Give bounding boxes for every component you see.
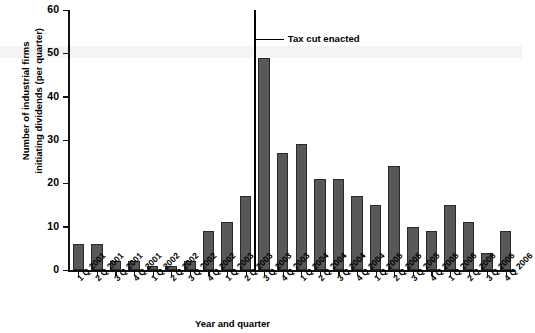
tax-cut-annotation-label: Tax cut enacted [288,33,360,44]
y-axis-title-line-2: initiating dividends (per quarter) [33,0,46,226]
tax-cut-event-line [254,10,256,270]
y-tick-label-10: 10 [31,221,59,232]
y-tick-label-0: 0 [31,264,59,275]
y-axis-title: Number of industrial firms initiating di… [20,0,46,226]
y-tick-label-20: 20 [31,177,59,188]
bar [258,58,270,270]
tax-cut-leader-line [256,39,284,40]
bars-layer [69,10,515,270]
y-tick-label-40: 40 [31,91,59,102]
y-tick-label-30: 30 [31,134,59,145]
y-axis-title-line-1: Number of industrial firms [20,0,33,226]
y-tick-label-60: 60 [31,4,59,15]
y-tick-label-50: 50 [31,47,59,58]
x-axis-title: Year and quarter [195,318,270,329]
bar [73,244,85,270]
